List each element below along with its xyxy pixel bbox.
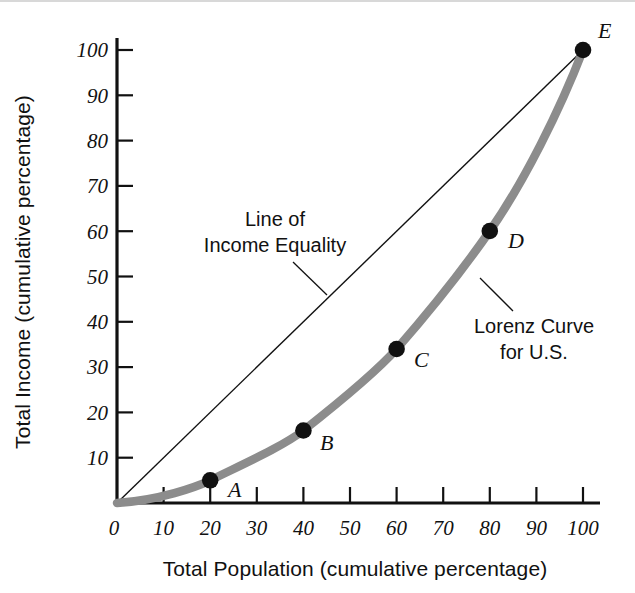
x-tick-label-100: 100 [567, 516, 599, 540]
data-point-c[interactable] [388, 341, 405, 358]
x-tick-label-70: 70 [433, 516, 455, 540]
x-tick-label-0: 0 [109, 516, 120, 540]
data-point-e[interactable] [575, 42, 592, 59]
data-point-labels: A B C D E [226, 18, 612, 502]
equality-annotation: Line of Income Equality [204, 208, 346, 295]
data-point-label-a: A [226, 477, 242, 502]
equality-annotation-leader-line [293, 262, 327, 295]
y-axis-tick-labels: 10 20 30 40 50 60 70 80 90 100 [77, 38, 109, 470]
y-tick-label-70: 70 [87, 174, 109, 198]
x-tick-label-80: 80 [479, 516, 501, 540]
y-tick-label-50: 50 [87, 265, 109, 289]
lorenz-curve-figure: 10 20 30 40 50 60 70 80 90 100 0 [0, 0, 635, 593]
data-point-label-b: B [320, 430, 333, 455]
data-point-label-e: E [597, 18, 612, 43]
y-tick-label-20: 20 [87, 401, 109, 425]
data-point-a[interactable] [202, 472, 219, 489]
lorenz-annotation-line1: Lorenz Curve [474, 315, 594, 337]
equality-annotation-line2: Income Equality [204, 234, 346, 256]
chart-canvas: 10 20 30 40 50 60 70 80 90 100 0 [0, 0, 635, 593]
lorenz-annotation: Lorenz Curve for U.S. [474, 278, 594, 363]
x-axis-tick-labels: 0 10 20 30 40 50 60 70 80 90 100 [109, 516, 600, 540]
x-axis-ticks [164, 487, 583, 503]
y-axis-ticks [117, 50, 133, 458]
data-point-d[interactable] [482, 223, 499, 240]
data-point-label-c: C [414, 347, 429, 372]
data-point-b[interactable] [295, 422, 312, 439]
lorenz-annotation-leader-line [480, 278, 513, 311]
y-axis-title: Total Income (cumulative percentage) [11, 95, 34, 449]
x-tick-label-90: 90 [526, 516, 548, 540]
data-point-markers [202, 42, 591, 489]
x-tick-label-40: 40 [293, 516, 315, 540]
equality-annotation-line1: Line of [245, 208, 305, 230]
y-tick-label-90: 90 [87, 84, 109, 108]
lorenz-annotation-line2: for U.S. [500, 341, 568, 363]
x-axis-title: Total Population (cumulative percentage) [163, 557, 548, 580]
y-tick-label-100: 100 [77, 38, 109, 62]
x-tick-label-50: 50 [340, 516, 362, 540]
y-tick-label-30: 30 [86, 355, 109, 379]
data-point-label-d: D [507, 228, 524, 253]
x-tick-label-60: 60 [386, 516, 408, 540]
x-tick-label-10: 10 [153, 516, 175, 540]
x-tick-label-30: 30 [245, 516, 268, 540]
x-tick-label-20: 20 [200, 516, 222, 540]
equality-line [117, 50, 583, 503]
y-tick-label-10: 10 [87, 446, 109, 470]
y-tick-label-80: 80 [87, 129, 109, 153]
y-tick-label-60: 60 [87, 220, 109, 244]
y-tick-label-40: 40 [87, 310, 109, 334]
